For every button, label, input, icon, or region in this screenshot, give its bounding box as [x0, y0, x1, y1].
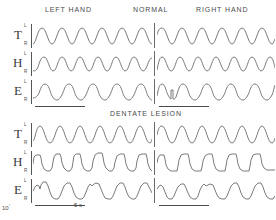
scale-bar-dentate-right	[159, 205, 209, 206]
heading-right-hand: RIGHT HAND	[196, 6, 248, 13]
heading-dentate-lesion: DENTATE LESION	[110, 110, 182, 117]
axis-tick-e-normal	[31, 80, 32, 104]
axis-tick-h-dentate	[31, 151, 32, 175]
trace-panel-dentate-left-h	[33, 149, 152, 177]
axis-tick-t-dentate	[31, 123, 32, 147]
trace-panel-normal-left-e	[33, 78, 152, 106]
heading-normal: NORMAL	[133, 6, 168, 13]
trace-panel-normal-right-h	[157, 50, 275, 78]
panel-divider-normal-e	[154, 79, 155, 104]
axis-tick-h-normal	[31, 52, 32, 76]
panel-divider-dentate-e	[154, 178, 155, 203]
time-scale-label: 5 s	[74, 202, 82, 208]
panel-divider-dentate-h	[154, 150, 155, 175]
degree-icon: °	[9, 203, 11, 208]
trace-panel-dentate-left-t	[33, 121, 152, 149]
trace-panel-normal-left-t	[33, 22, 152, 50]
row-label-h-normal: H	[13, 56, 22, 69]
scale-bar-normal-left	[35, 106, 85, 107]
amplitude-scale-value: 10	[2, 205, 9, 211]
axis-tick-t-normal	[31, 24, 32, 48]
row-label-e-normal: E	[14, 84, 22, 97]
trace-panel-dentate-left-e	[33, 177, 152, 205]
panel-divider-normal-t	[154, 23, 155, 48]
trace-panel-normal-right-t	[157, 22, 275, 50]
scale-bar-normal-right	[159, 106, 209, 107]
trace-panel-normal-left-h	[33, 50, 152, 78]
row-label-t-dentate: T	[14, 127, 22, 140]
heading-left-hand: LEFT HAND	[45, 6, 92, 13]
panel-divider-dentate-t	[154, 122, 155, 147]
panel-divider-normal-h	[154, 51, 155, 76]
amplitude-scale-label: 10°	[2, 203, 10, 211]
trace-panel-dentate-right-t	[157, 121, 275, 149]
row-label-h-dentate: H	[13, 155, 22, 168]
row-label-t-normal: T	[14, 28, 22, 41]
row-label-e-dentate: E	[14, 183, 22, 196]
tremor-recording-figure: LEFT HAND NORMAL RIGHT HAND DENTATE LESI…	[0, 0, 276, 220]
trace-panel-normal-right-e	[157, 78, 275, 106]
axis-tick-e-dentate	[31, 179, 32, 203]
trace-panel-dentate-right-e	[157, 177, 275, 205]
trace-panel-dentate-right-h	[157, 149, 275, 177]
